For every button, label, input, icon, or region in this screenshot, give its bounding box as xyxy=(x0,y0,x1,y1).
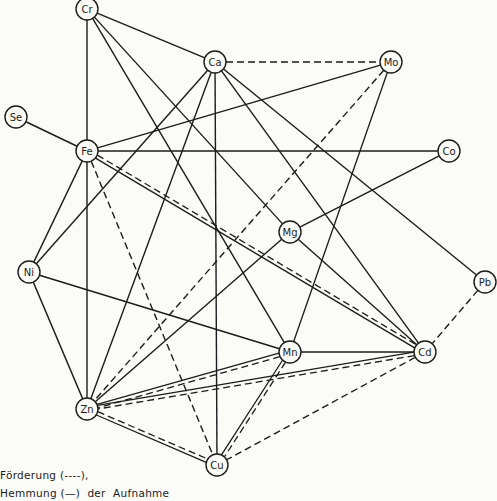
edge-ca-zn-inhibition xyxy=(91,72,211,398)
node-se: Se xyxy=(5,106,27,128)
edge-fe-ni-inhibition xyxy=(34,161,82,262)
node-mg: Mg xyxy=(279,221,301,243)
edge-ni-mn-inhibition xyxy=(40,275,280,349)
node-mo: Mo xyxy=(380,51,402,73)
node-label: Zn xyxy=(80,404,93,415)
node-label: Co xyxy=(442,146,455,157)
element-interaction-diagram: CrCaMoSeFeCoMgNiPbMnCdZnCu xyxy=(0,0,497,501)
edge-mo-fe-inhibition xyxy=(98,65,381,148)
edge-co-mg-inhibition xyxy=(300,156,439,227)
node-label: Cr xyxy=(81,4,93,15)
node-label: Mg xyxy=(283,227,298,238)
node-label: Cu xyxy=(210,460,223,471)
node-label: Pb xyxy=(479,277,491,288)
node-zn: Zn xyxy=(76,398,98,420)
node-label: Se xyxy=(10,112,23,123)
node-label: Fe xyxy=(81,146,92,157)
edge-cr-mn-inhibition xyxy=(93,18,285,342)
node-cu: Cu xyxy=(206,454,228,476)
edge-cr-ca-inhibition xyxy=(97,13,205,58)
edge-zn-cu-inhibition xyxy=(96,415,206,462)
node-fe: Fe xyxy=(76,140,98,162)
node-cd: Cd xyxy=(414,341,436,363)
node-label: Ca xyxy=(208,57,221,68)
nodes-layer: CrCaMoSeFeCoMgNiPbMnCdZnCu xyxy=(5,0,496,476)
legend-inhibition-label: Hemmung (—) der Aufnahme xyxy=(0,487,169,499)
edge-ca-cd-inhibition xyxy=(221,71,418,343)
node-cr: Cr xyxy=(76,0,98,20)
edge-se-fe-inhibition xyxy=(26,122,77,146)
edge-ni-zn-inhibition xyxy=(33,282,82,399)
node-label: Mo xyxy=(384,57,399,68)
edge-zn-cu-promotion xyxy=(98,412,208,459)
node-mn: Mn xyxy=(279,341,301,363)
node-ni: Ni xyxy=(18,261,40,283)
node-pb: Pb xyxy=(474,271,496,293)
edge-pb-cd-promotion xyxy=(432,290,478,343)
node-label: Cd xyxy=(418,347,431,358)
edges-layer xyxy=(26,13,478,462)
edge-cr-mg-inhibition xyxy=(94,17,282,224)
edge-mn-cu-inhibition xyxy=(221,360,282,455)
edge-mn-cu-promotion xyxy=(224,362,285,457)
edge-fe-cu-promotion xyxy=(91,161,213,455)
node-label: Ni xyxy=(24,267,34,278)
edge-mg-cd-inhibition xyxy=(298,239,417,344)
node-label: Mn xyxy=(283,347,298,358)
node-ca: Ca xyxy=(204,51,226,73)
edge-fe-cd-inhibition xyxy=(96,158,415,348)
legend-promotion-label: Förderung (----), xyxy=(0,469,89,481)
node-co: Co xyxy=(438,140,460,162)
